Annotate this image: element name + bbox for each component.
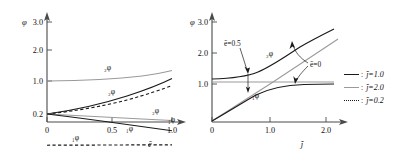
legend-item-j2: : j̄=2.0 <box>344 81 410 94</box>
annotation-e0-text: ē=0 <box>310 60 321 69</box>
left-label-1phi-b: ₁φ <box>126 124 134 133</box>
right-y-axis <box>209 12 217 122</box>
annotation-e05: ē=0.5 <box>224 39 250 93</box>
curve-diagonal-e0 <box>212 39 338 121</box>
legend-swatch-dotted-icon <box>344 100 359 101</box>
left-y-axis <box>44 12 52 122</box>
right-x-axis <box>212 117 348 125</box>
curve-1phi-e05 <box>212 84 334 121</box>
right-ytick-0: 1.0 <box>198 80 208 89</box>
left-x-axis-label: ē <box>148 139 152 149</box>
legend-item-j1: : j̄=1.0 <box>344 68 410 81</box>
right-label-2phi: ₂φ <box>266 49 274 58</box>
right-y-axis-label: φ <box>190 17 195 27</box>
left-ytick-1: 1.0 <box>33 77 43 86</box>
legend-swatch-solid-black-icon <box>344 74 359 75</box>
left-label-2phi-a: ₂φ <box>104 63 112 72</box>
legend-label-j1: j̄=1.0 <box>366 70 384 79</box>
legend-swatch-solid-gray-icon <box>344 87 359 88</box>
legend-label-j02: j̄=0.2 <box>366 96 384 105</box>
left-label-2phi-c: ₂φ <box>152 106 160 115</box>
legend: : j̄=1.0 : j̄=2.0 : j̄=0.2 <box>344 68 410 107</box>
legend-colon-0: : <box>361 70 363 79</box>
legend-item-j02: : j̄=0.2 <box>344 94 410 107</box>
left-x-axis <box>47 117 186 125</box>
annotation-e0: ē=0 <box>290 41 322 84</box>
right-ytick-1: 2.0 <box>198 49 208 58</box>
left-panel-svg: 3.0 2.0 1.0 0.2 0 0.5 1.0 φ ē ₂φ ₂φ ₂φ … <box>0 0 200 154</box>
legend-colon-2: : <box>361 96 363 105</box>
left-xtick-0: 0 <box>45 126 49 135</box>
right-label-1phi: ₁φ <box>252 91 260 100</box>
left-ytick-0: 0.2 <box>33 110 43 119</box>
right-xtick-2: 2.0 <box>321 126 331 135</box>
left-xtick-2: 1.0 <box>167 126 177 135</box>
annotation-e05-arrowhead <box>245 67 251 75</box>
figure-container: 3.0 2.0 1.0 0.2 0 0.5 1.0 φ ē ₂φ ₂φ ₂φ … <box>0 0 410 154</box>
left-y-axis-label: φ <box>22 17 27 27</box>
left-label-2phi-b: ₂φ <box>108 87 116 96</box>
annotation-e0-arrowhead-down <box>293 76 298 84</box>
right-xtick-1: 1.0 <box>265 126 275 135</box>
annotation-e05-text: ē=0.5 <box>224 39 241 48</box>
right-xtick-0: 0 <box>210 126 214 135</box>
left-ytick-3: 3.0 <box>33 18 43 27</box>
left-label-1phi-a: ₁φ <box>168 115 176 124</box>
right-x-axis-label: j̄ <box>300 139 305 149</box>
left-ytick-2: 2.0 <box>33 46 43 55</box>
legend-colon-1: : <box>361 83 363 92</box>
left-xtick-1: 0.5 <box>107 126 117 135</box>
legend-label-j2: j̄=2.0 <box>366 83 384 92</box>
right-ytick-2: 3.0 <box>198 18 208 27</box>
svg-text:ē: ē <box>148 139 152 149</box>
chart-panel-left: 3.0 2.0 1.0 0.2 0 0.5 1.0 φ ē ₂φ ₂φ ₂φ … <box>0 0 200 154</box>
curve-2phi-j2-upper <box>47 71 172 82</box>
left-label-1phi-c: ₁φ <box>72 133 80 142</box>
